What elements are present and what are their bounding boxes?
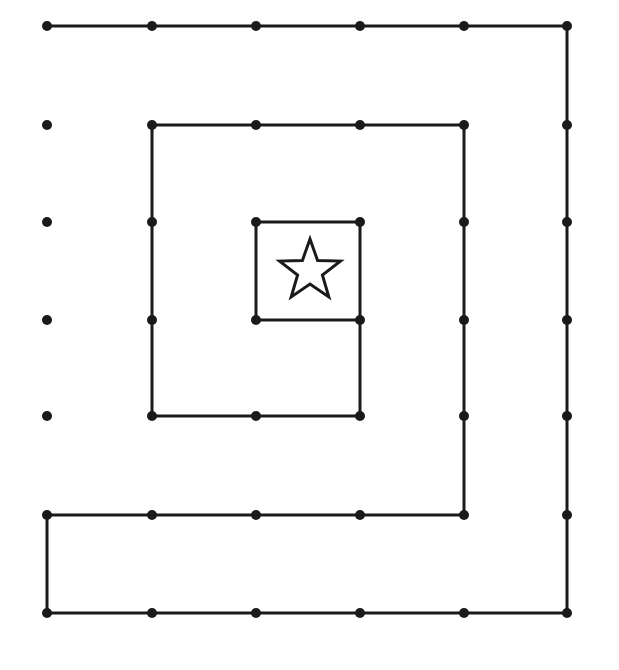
grid-dot — [459, 120, 469, 130]
grid-dot — [251, 608, 261, 618]
grid-dot — [459, 510, 469, 520]
grid-dot — [251, 217, 261, 227]
grid-dot — [562, 411, 572, 421]
star-outline — [280, 239, 341, 297]
grid-dot — [355, 608, 365, 618]
grid-dot — [147, 510, 157, 520]
grid-dot — [355, 315, 365, 325]
grid-dot — [562, 510, 572, 520]
grid-dot — [355, 411, 365, 421]
grid-dot — [42, 608, 52, 618]
grid-dot — [147, 315, 157, 325]
grid-dot — [147, 411, 157, 421]
grid-dot — [251, 21, 261, 31]
grid-dot — [459, 608, 469, 618]
star-icon — [280, 239, 341, 297]
spiral-dot-diagram — [0, 0, 619, 670]
grid-dot — [42, 21, 52, 31]
grid-dot — [147, 608, 157, 618]
grid-dot — [562, 120, 572, 130]
grid-dot — [251, 411, 261, 421]
grid-dot — [42, 315, 52, 325]
grid-dot — [147, 120, 157, 130]
spiral-path — [47, 26, 567, 613]
grid-dot — [459, 217, 469, 227]
grid-dot — [355, 120, 365, 130]
spiral-line — [47, 26, 567, 613]
grid-dot — [251, 315, 261, 325]
grid-dot — [459, 315, 469, 325]
grid-dot — [355, 510, 365, 520]
grid-dot — [42, 510, 52, 520]
grid-dot — [355, 21, 365, 31]
grid-dot — [251, 120, 261, 130]
grid-dot — [147, 217, 157, 227]
grid-dot — [42, 411, 52, 421]
grid-dot — [562, 315, 572, 325]
grid-dot — [42, 217, 52, 227]
grid-dot — [147, 21, 157, 31]
grid-dot — [251, 510, 261, 520]
grid-dot — [562, 21, 572, 31]
grid-dot — [459, 21, 469, 31]
grid-dot — [459, 411, 469, 421]
grid-dot — [355, 217, 365, 227]
grid-dot — [42, 120, 52, 130]
grid-dot — [562, 217, 572, 227]
grid-dot — [562, 608, 572, 618]
